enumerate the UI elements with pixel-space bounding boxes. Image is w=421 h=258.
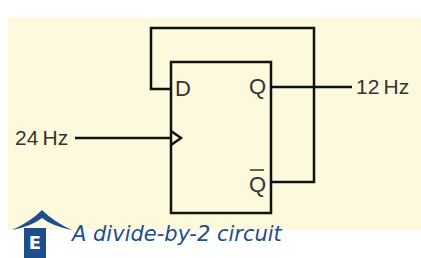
input-frequency-label: 24 Hz xyxy=(15,126,68,150)
clock-triangle-icon xyxy=(171,131,181,145)
q-pin-label: Q xyxy=(249,74,266,100)
figure-caption: A divide-by-2 circuit xyxy=(72,222,282,246)
figure-badge: E xyxy=(24,228,46,258)
figure: D Q Q 24 Hz 12 Hz E A divide-by-2 circui… xyxy=(0,0,421,258)
roof-icon xyxy=(12,210,72,230)
feedback-wire xyxy=(151,28,314,182)
output-frequency-label: 12 Hz xyxy=(356,75,409,99)
d-pin-label: D xyxy=(175,76,191,102)
q-bar-pin-label: Q xyxy=(249,172,266,198)
